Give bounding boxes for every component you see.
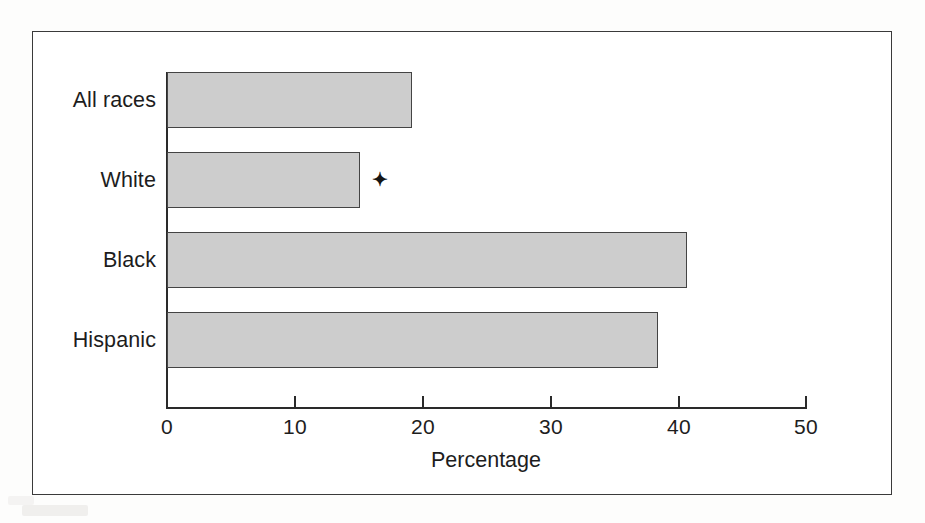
x-axis-tick-10 (294, 396, 296, 408)
bar-all-races (167, 72, 412, 128)
category-label-white: White (8, 168, 156, 193)
bar-white (167, 152, 360, 208)
x-axis-tick-label-0: 0 (161, 415, 173, 439)
x-axis-tick-0 (166, 396, 168, 408)
x-axis-title: Percentage (431, 448, 541, 473)
bar-hispanic (167, 312, 658, 368)
x-axis-tick-20 (422, 396, 424, 408)
x-axis-line (166, 407, 807, 409)
footnote-asterisk-marker: ✦ (372, 170, 388, 189)
x-axis-tick-label-40: 40 (667, 415, 691, 439)
x-axis-tick-label-20: 20 (411, 415, 435, 439)
x-axis-tick-label-50: 50 (794, 415, 818, 439)
category-label-black: Black (8, 248, 156, 273)
category-label-hispanic: Hispanic (8, 328, 156, 353)
x-axis-tick-30 (550, 396, 552, 408)
x-axis-tick-50 (805, 396, 807, 408)
x-axis-tick-40 (678, 396, 680, 408)
category-label-all-races: All races (8, 88, 156, 113)
bar-black (167, 232, 687, 288)
x-axis-tick-label-30: 30 (539, 415, 563, 439)
bar-chart-plot: 0 10 20 30 40 50 All races White Black H… (0, 0, 925, 523)
x-axis-tick-label-10: 10 (283, 415, 307, 439)
